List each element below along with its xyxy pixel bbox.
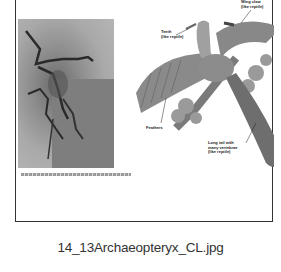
archaeopteryx-illustration: Wing claw (like reptile) Teeth (like rep…: [116, 0, 274, 173]
image-thumbnail[interactable]: Wing claw (like reptile) Teeth (like rep…: [15, 0, 273, 222]
label-feathers: Feathers: [146, 126, 163, 131]
label-wing-claw: Wing claw (like reptile): [241, 0, 263, 9]
fossil-caption: [21, 173, 131, 176]
file-name-caption[interactable]: 14_13Archaeopteryx_CL.jpg: [0, 240, 281, 255]
fossil-photo: [18, 19, 114, 168]
label-long-tail: Long tail with many vertebrae (like rept…: [208, 141, 238, 155]
label-teeth: Teeth (like reptile): [161, 30, 183, 39]
